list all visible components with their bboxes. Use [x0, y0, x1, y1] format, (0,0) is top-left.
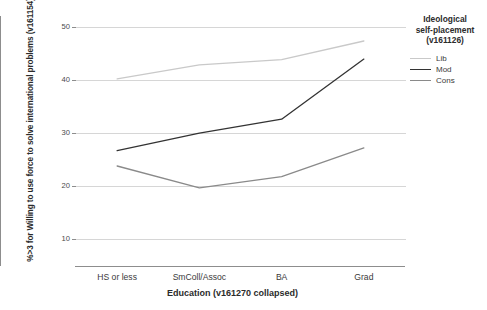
legend-title-line-1: Ideological — [406, 14, 484, 25]
legend-item-lib[interactable]: Lib — [410, 53, 486, 64]
legend-item-cons[interactable]: Cons — [410, 75, 486, 86]
legend-label-cons: Cons — [436, 76, 455, 85]
series-line-cons — [117, 148, 364, 188]
legend-label-mod: Mod — [436, 65, 452, 74]
legend-item-mod[interactable]: Mod — [410, 64, 486, 75]
legend-label-lib: Lib — [436, 54, 447, 63]
legend-title: Ideological self-placement (v161126) — [406, 14, 484, 46]
x-axis-title: Education (v161270 collapsed) — [60, 288, 405, 298]
legend-swatch-cons — [410, 80, 431, 81]
legend-swatch-mod — [410, 69, 431, 70]
legend-title-line-2: self-placement — [406, 25, 484, 36]
series-line-lib — [117, 41, 364, 79]
legend-swatch-lib — [410, 58, 431, 59]
legend-items: LibModCons — [406, 53, 486, 86]
legend-title-line-3: (v161126) — [406, 35, 484, 46]
legend: Ideological self-placement (v161126) Lib… — [406, 14, 486, 86]
line-chart: %>3 for Willing to use force to solve in… — [0, 0, 487, 310]
